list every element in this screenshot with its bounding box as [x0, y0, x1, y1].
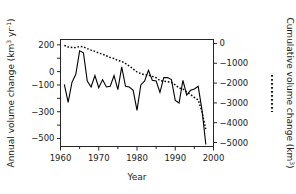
figure-container: 2000−100−300−500 0−1000−2000−3000−4000−5… [0, 0, 296, 194]
right-tick-label--1000: −1000 [220, 58, 249, 68]
right-tick-label-0: 0 [220, 38, 225, 48]
right-axis-title: Cumulative volume change (km3) [285, 17, 296, 168]
left-axis-title-end: ) [6, 18, 16, 22]
right-tick-label--3000: −3000 [220, 98, 249, 108]
left-tick-label--300: −300 [31, 107, 54, 117]
right-tick-label--2000: −2000 [220, 78, 249, 88]
right-tick-label--5000: −5000 [220, 138, 249, 148]
left-tick-label-0: 0 [49, 67, 54, 77]
x-axis-title: Year [126, 172, 146, 182]
left-tick-label-200: 200 [38, 40, 54, 50]
x-tick-label-1970: 1970 [88, 153, 110, 163]
left-tick-label--500: −500 [31, 133, 54, 143]
left-tick-label--100: −100 [31, 80, 54, 90]
x-tick-label-1960: 1960 [50, 153, 72, 163]
right-axis-title-end: ) [285, 165, 295, 169]
x-tick-label-1990: 1990 [164, 153, 186, 163]
right-axis-title-main: Cumulative volume change (km [285, 17, 295, 161]
x-tick-label-2000: 2000 [203, 153, 225, 163]
left-axis-title-mid: yr [6, 28, 16, 40]
figure-background [0, 0, 296, 194]
left-axis-title-main: Annual volume change (km [6, 44, 16, 168]
right-tick-label--4000: −4000 [220, 118, 249, 128]
x-tick-label-1980: 1980 [126, 153, 148, 163]
left-axis-title: Annual volume change (km3 yr-1) [5, 18, 16, 167]
chart-canvas: 2000−100−300−500 0−1000−2000−3000−4000−5… [0, 0, 296, 194]
